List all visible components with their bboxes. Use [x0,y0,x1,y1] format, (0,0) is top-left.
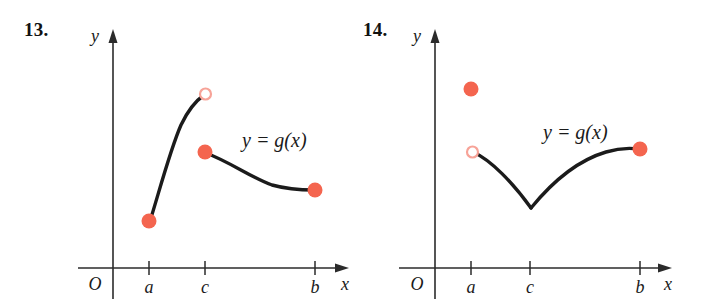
endpoint-closed-at-b-13 [308,183,323,198]
x-tick-label-a-14: a [467,277,476,297]
x-axis-label-13: x [340,274,349,294]
curve-left-branch-13 [150,95,204,221]
curve-right-ascent-14 [531,148,639,208]
curve-right-branch-13 [206,153,314,190]
y-axis-13 [109,29,118,299]
origin-label-13: O [89,274,102,294]
x-axis-13 [78,264,349,273]
problem-13-figure: 13. [0,0,361,299]
origin-label-14: O [411,274,424,294]
textbook-figure-page: 13. [0,0,722,299]
x-tick-label-c-13: c [201,277,209,297]
endpoint-open-at-a-14 [467,147,478,158]
endpoint-closed-at-c-13 [198,145,213,160]
x-tick-label-c-14: c [526,277,534,297]
y-axis-14 [431,29,440,299]
isolated-point-at-a-14 [464,82,479,97]
problem-14-figure: 14. [361,0,722,299]
y-axis-label-14: y [411,26,421,46]
x-tick-label-b-14: b [636,277,645,297]
endpoint-closed-at-b-14 [633,142,648,157]
problem-13-graph: y x O a c b y = g(x) [0,0,361,299]
x-axis-label-14: x [663,274,672,294]
y-axis-label-13: y [89,26,99,46]
curve-left-descent-14 [473,152,531,208]
function-label-13: y = g(x) [240,129,307,152]
x-tick-label-b-13: b [311,277,320,297]
problem-14-graph: y x O a c b y = g(x) [361,0,722,299]
x-tick-label-a-13: a [145,277,154,297]
x-axis-14 [399,264,672,273]
function-label-14: y = g(x) [541,121,608,144]
endpoint-open-at-c-13 [200,89,211,100]
endpoint-closed-at-a-13 [142,214,157,229]
